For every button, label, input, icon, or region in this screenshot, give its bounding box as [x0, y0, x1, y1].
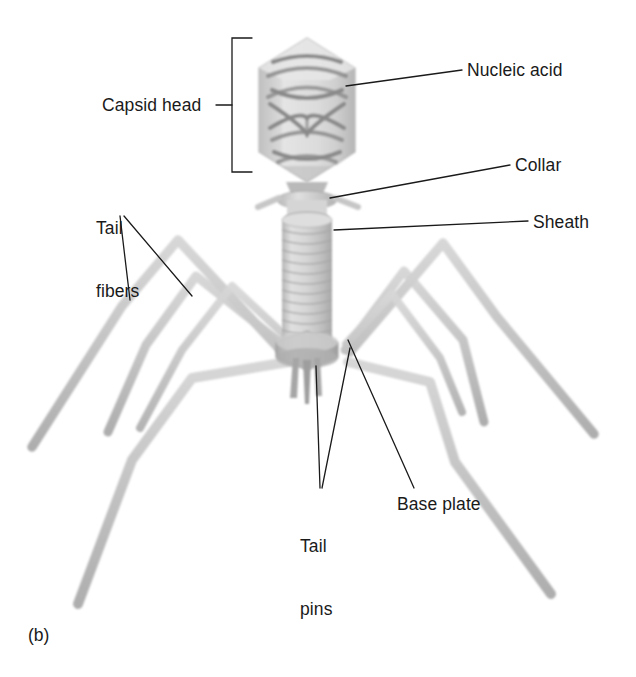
- label-capsid-head: Capsid head: [102, 95, 201, 116]
- label-tail-fibers-line2: fibers: [96, 281, 139, 302]
- label-nucleic-acid: Nucleic acid: [467, 60, 563, 81]
- capsid-head-bracket: [232, 38, 252, 172]
- leader-nucleic-acid: [346, 70, 462, 86]
- tail-fiber-front-right: [348, 362, 551, 594]
- tail-fiber-left-stub: [140, 286, 292, 428]
- label-collar: Collar: [515, 155, 561, 176]
- label-tail-fibers-line1: Tail: [96, 218, 139, 239]
- leader-base-plate: [348, 340, 414, 488]
- tail-fiber-front-left: [78, 362, 288, 604]
- label-tail-pins-line2: pins: [300, 599, 333, 620]
- sheath-shape: [282, 213, 332, 345]
- tail-fiber-back-right: [345, 271, 484, 422]
- tail-fiber-far-right: [350, 243, 594, 434]
- label-tail-fibers: Tail fibers: [96, 176, 139, 344]
- leader-sheath: [334, 221, 528, 230]
- figure-caption: (b): [28, 625, 49, 646]
- leader-tail-pin-b: [322, 348, 350, 488]
- label-tail-pins: Tail pins: [300, 494, 333, 662]
- label-tail-pins-line1: Tail: [300, 536, 333, 557]
- label-sheath: Sheath: [533, 212, 589, 233]
- leader-collar: [330, 165, 510, 198]
- label-base-plate: Base plate: [397, 494, 481, 515]
- bacteriophage-figure: Nucleic acid Collar Sheath Capsid head T…: [0, 0, 636, 677]
- capsid-head-shape: [259, 38, 355, 182]
